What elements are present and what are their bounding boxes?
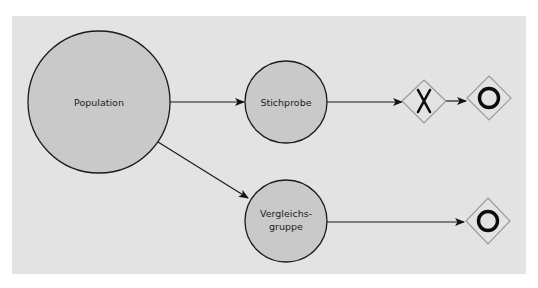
node-stichprobe-label: Stichprobe [260,97,311,108]
exclusive-gateway [402,80,446,123]
end-event-1 [467,76,511,120]
node-population-label: Population [74,97,124,108]
end-event-2 [466,198,510,244]
node-vergleichsgruppe-label-line1: Vergleichs- [260,208,312,219]
flow-diagram: Population Stichprobe Vergleichs- gruppe [0,0,538,288]
edge-population-to-vergleichsgruppe [158,142,248,198]
node-vergleichsgruppe-label-line2: gruppe [269,221,303,232]
node-stichprobe: Stichprobe [245,61,327,143]
node-population: Population [28,31,170,173]
node-vergleichsgruppe: Vergleichs- gruppe [245,180,327,262]
